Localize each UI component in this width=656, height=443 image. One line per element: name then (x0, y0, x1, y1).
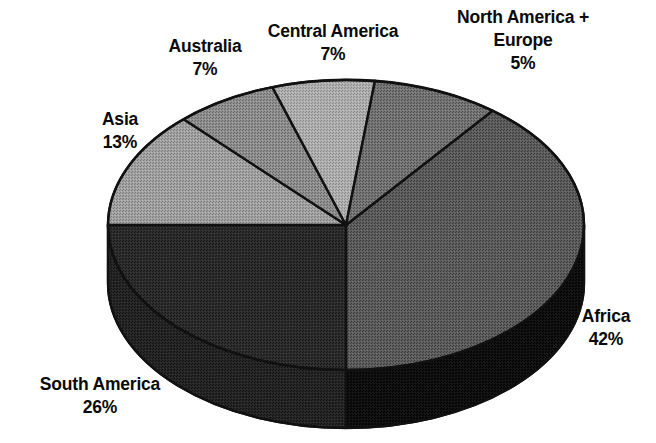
slice-label-south-america-value: 26% (40, 396, 160, 419)
slice-label-south-america: South America 26% (40, 373, 160, 419)
slice-label-africa-name: Africa (582, 305, 630, 328)
slice-label-asia-value: 13% (102, 131, 138, 154)
slice-label-north-america-europe: North America + Europe 5% (457, 6, 589, 74)
slice-label-south-america-name: South America (40, 373, 160, 396)
pie-chart-figure: Australia 7% Central America 7% North Am… (0, 0, 656, 443)
slice-label-australia-name: Australia (168, 35, 241, 58)
slice-label-north-america-europe-value: 5% (457, 52, 589, 75)
slice-label-africa: Africa 42% (582, 305, 630, 351)
slice-label-australia: Australia 7% (168, 35, 241, 81)
slice-label-africa-value: 42% (582, 328, 630, 351)
pie-slices (108, 80, 584, 370)
slice-label-asia: Asia 13% (102, 108, 138, 154)
slice-label-north-america-europe-line1: North America + (457, 6, 589, 29)
slice-label-asia-name: Asia (102, 108, 138, 131)
slice-label-central-america-name: Central America (268, 20, 399, 43)
slice-label-central-america: Central America 7% (268, 20, 399, 66)
slice-label-australia-value: 7% (168, 58, 241, 81)
slice-label-north-america-europe-line2: Europe (457, 29, 589, 52)
slice-label-central-america-value: 7% (268, 43, 399, 66)
